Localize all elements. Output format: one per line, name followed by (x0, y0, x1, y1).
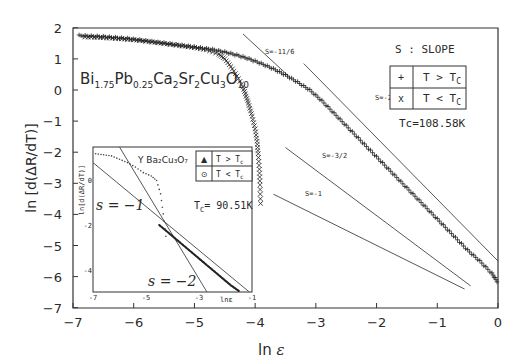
y-tick-label: −4 (43, 207, 62, 222)
legend-plus-marker: + (398, 72, 404, 83)
inset-y-tick-label: 0 (88, 177, 92, 185)
legend-title: S : SLOPE (395, 43, 455, 56)
y-tick-label: 2 (54, 21, 62, 36)
y-tick-label: −7 (43, 301, 62, 316)
inset-y-tick-label: -4 (84, 267, 92, 275)
inset-x-tick-label: -3 (195, 294, 203, 302)
reference-line-label: S=-11/6 (265, 48, 295, 56)
compound-label: Bi1.75Pb0.25Ca2Sr2Cu3O10 (80, 70, 249, 90)
y-tick-label: −6 (43, 270, 62, 285)
tc-annotation: Tc=108.58K (399, 117, 466, 130)
x-tick-label: −5 (185, 315, 204, 330)
inset-legend-label-below: T < Tc (216, 170, 244, 180)
inset-x-axis-label: lnε (220, 296, 233, 304)
y-tick-label: 1 (54, 52, 62, 67)
reference-line-label: S=-3/2 (322, 152, 347, 160)
y-axis-label: ln [d(ΔR/dT)] (23, 123, 39, 212)
x-axis-label: ln ε (258, 341, 285, 359)
y-tick-label: −1 (43, 114, 62, 129)
y-tick-label: −3 (43, 176, 62, 191)
legend-x-marker: x (398, 93, 404, 104)
inset-y-axis-label: ln[d(ΔR/dT)] (78, 165, 86, 216)
inset-slope-minus-2: s = −2 (148, 273, 197, 289)
legend-table: + x T > TC T < TC (390, 66, 466, 109)
x-tick-label: −7 (63, 315, 82, 330)
x-tick-label: −6 (124, 315, 143, 330)
legend-label-below: T < TC (423, 92, 461, 107)
inset-x-tick-label: -7 (89, 294, 97, 302)
inset-x-tick-label: -1 (248, 294, 256, 302)
reference-line-label: S=-1 (305, 190, 322, 198)
inset-slope-minus-1: s = −1 (96, 197, 144, 213)
y-tick-label: −2 (43, 145, 62, 160)
reference-line-label: S=-2 (375, 94, 392, 102)
inset-plot: -7-5-3-10-2-4 ln[d(ΔR/dT)] Y Ba₂Cu₃O₇ ▲ … (78, 147, 256, 304)
reference-line (273, 194, 464, 289)
inset-legend-circle-marker: ⊙ (201, 170, 208, 179)
chart: −7−6−5−4−3−2−10 210−1−2−3−4−5−6−7 S=-11/… (0, 0, 515, 364)
reference-line (286, 148, 471, 286)
inset-legend-triangle-marker: ▲ (201, 155, 208, 164)
x-tick-label: −4 (246, 315, 265, 330)
inset-compound-label: Y Ba₂Cu₃O₇ (137, 155, 188, 165)
inset-y-tick-label: -2 (84, 222, 92, 230)
inset-x-tick-label: -5 (142, 294, 150, 302)
x-tick-label: −1 (428, 315, 447, 330)
legend-label-above: T > TC (423, 71, 461, 86)
x-tick-label: −2 (367, 315, 386, 330)
inset-legend-label-above: T > Tc (216, 155, 244, 165)
y-tick-label: 0 (54, 83, 62, 98)
x-tick-label: 0 (494, 315, 502, 330)
x-axis-ticks: −7−6−5−4−3−2−10 (63, 303, 502, 330)
y-tick-label: −5 (43, 239, 62, 254)
x-tick-label: −3 (306, 315, 325, 330)
inset-legend-table: ▲ ⊙ T > Tc T < Tc (196, 151, 252, 181)
